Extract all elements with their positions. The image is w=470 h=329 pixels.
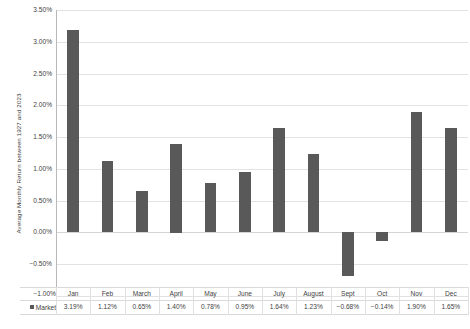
table-value-nov: 1.90% — [399, 303, 433, 310]
table-header-june: June — [228, 290, 262, 297]
y-axis-title: Average Monthly Return between 1927 and … — [15, 49, 22, 279]
y-tick-label: 3.00% — [8, 38, 52, 45]
y-tick-label: 1.50% — [8, 133, 52, 140]
bar-march — [136, 191, 148, 232]
bar-dec — [445, 128, 457, 233]
y-axis-line — [56, 10, 57, 296]
gridline-1.00% — [56, 169, 468, 170]
gridline-2.00% — [56, 105, 468, 106]
table-value-jan: 3.19% — [56, 303, 90, 310]
table-value-june: 0.95% — [228, 303, 262, 310]
bar-nov — [411, 112, 423, 233]
table-header-jan: Jan — [56, 290, 90, 297]
gridline-3.00% — [56, 42, 468, 43]
legend-color-swatch-icon — [30, 305, 34, 309]
y-tick-label: 3.50% — [8, 6, 52, 13]
table-mid-border — [20, 300, 468, 301]
table-value-april: 1.40% — [159, 303, 193, 310]
bar-august — [308, 154, 320, 232]
table-value-feb: 1.12% — [90, 303, 124, 310]
plot-area — [56, 10, 468, 296]
data-table: −1.00% Market Jan3.19%Feb1.12%March0.65%… — [20, 287, 468, 315]
y-tick-label: 2.00% — [8, 101, 52, 108]
table-header-march: March — [125, 290, 159, 297]
table-header-may: May — [193, 290, 227, 297]
table-column-separator — [468, 287, 469, 315]
y-axis-min-label: −1.00% — [20, 290, 56, 297]
table-header-dec: Dec — [434, 290, 468, 297]
table-header-august: August — [296, 290, 330, 297]
table-header-feb: Feb — [90, 290, 124, 297]
gridline-3.50% — [56, 10, 468, 11]
table-value-dec: 1.65% — [434, 303, 468, 310]
table-value-may: 0.78% — [193, 303, 227, 310]
gridline-2.50% — [56, 74, 468, 75]
table-bottom-border — [20, 314, 468, 315]
bar-july — [273, 128, 285, 232]
bar-sept — [342, 232, 354, 275]
y-tick-label: 0.50% — [8, 197, 52, 204]
table-value-august: 1.23% — [296, 303, 330, 310]
bar-april — [170, 144, 182, 233]
y-tick-label: 2.50% — [8, 70, 52, 77]
table-value-march: 0.65% — [125, 303, 159, 310]
table-value-july: 1.64% — [262, 303, 296, 310]
gridline-−0.50% — [56, 264, 468, 265]
legend-market: Market — [20, 303, 56, 311]
bar-jan — [67, 30, 79, 233]
table-value-oct: −0.14% — [365, 303, 399, 310]
table-header-oct: Oct — [365, 290, 399, 297]
table-header-sept: Sept — [331, 290, 365, 297]
table-value-sept: −0.68% — [331, 303, 365, 310]
table-header-nov: Nov — [399, 290, 433, 297]
table-header-july: July — [262, 290, 296, 297]
bar-feb — [102, 161, 114, 232]
gridline-1.50% — [56, 137, 468, 138]
y-tick-label: −0.50% — [8, 260, 52, 267]
y-tick-label: 0.00% — [8, 228, 52, 235]
zero-line — [56, 232, 468, 233]
table-header-april: April — [159, 290, 193, 297]
y-tick-label: 1.00% — [8, 165, 52, 172]
bar-june — [239, 172, 251, 232]
chart-container: Average Monthly Return between 1927 and … — [0, 0, 470, 329]
table-top-border — [20, 287, 468, 288]
legend-label: Market — [36, 304, 56, 311]
bar-oct — [376, 232, 388, 241]
gridline-0.50% — [56, 201, 468, 202]
bar-may — [205, 183, 217, 233]
